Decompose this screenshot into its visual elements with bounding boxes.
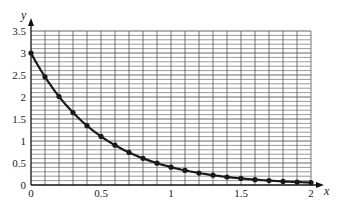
x-tick-label: 1	[168, 187, 174, 199]
y-axis-arrow-icon	[28, 18, 34, 26]
y-tick-label: 1	[21, 135, 27, 147]
data-point-marker	[154, 161, 159, 166]
y-tick-label: 3	[21, 47, 27, 59]
data-point-marker	[294, 179, 299, 184]
data-point-marker	[280, 179, 285, 184]
chart: 00.511.5200.511.522.533.5 x y	[0, 0, 339, 212]
data-point-marker	[126, 150, 131, 155]
y-axis-label: y	[20, 8, 27, 22]
data-point-marker	[56, 94, 61, 99]
data-point-marker	[98, 134, 103, 139]
data-point-marker	[252, 177, 257, 182]
data-point-marker	[182, 168, 187, 173]
data-point-marker	[42, 74, 47, 79]
data-point-marker	[84, 123, 89, 128]
y-tick-label: 0.5	[12, 157, 26, 169]
data-point-marker	[266, 178, 271, 183]
data-point-marker	[210, 173, 215, 178]
tick-labels: 00.511.5200.511.522.533.5	[12, 25, 314, 199]
data-point-marker	[224, 174, 229, 179]
axes	[28, 18, 324, 188]
x-tick-label: 1.5	[234, 187, 248, 199]
data-point-marker	[308, 180, 313, 185]
data-point-marker	[168, 165, 173, 170]
y-tick-label: 3.5	[12, 25, 26, 37]
data-point-marker	[112, 143, 117, 148]
data-point-marker	[140, 156, 145, 161]
y-tick-label: 1.5	[12, 113, 26, 125]
x-tick-label: 2	[308, 187, 314, 199]
data-point-marker	[196, 170, 201, 175]
data-point-marker	[28, 50, 33, 55]
x-axis-arrow-icon	[316, 182, 324, 188]
y-tick-label: 2.5	[12, 69, 26, 81]
grid	[31, 31, 311, 185]
x-tick-label: 0	[28, 187, 34, 199]
y-tick-label: 0	[21, 179, 27, 191]
x-axis-label: x	[323, 184, 330, 198]
data-point-marker	[70, 110, 75, 115]
y-tick-label: 2	[21, 91, 27, 103]
data-point-marker	[238, 176, 243, 181]
x-tick-label: 0.5	[94, 187, 108, 199]
